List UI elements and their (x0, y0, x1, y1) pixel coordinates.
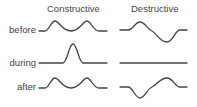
destructive-before-wave (120, 22, 187, 42)
constructive-after-wave (39, 78, 107, 88)
interference-diagram: Constructive Destructive before during a… (0, 0, 197, 107)
waveforms (0, 0, 197, 107)
destructive-after-wave (120, 78, 187, 98)
constructive-during-wave (39, 44, 107, 63)
constructive-before-wave (39, 21, 107, 31)
